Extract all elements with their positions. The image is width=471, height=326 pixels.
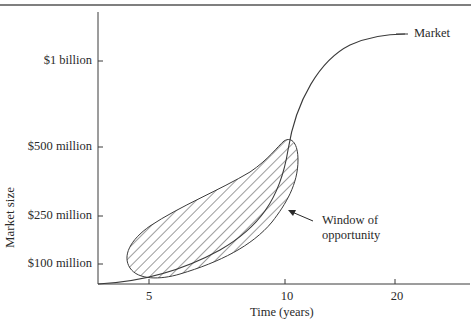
ytick-label-100m: $100 million <box>2 256 92 271</box>
chart-canvas <box>0 0 471 326</box>
window-arrow-line <box>292 212 313 221</box>
ytick-label-500m: $500 million <box>2 139 92 154</box>
market-window-chart: $1 billion $500 million $250 million $10… <box>0 0 471 326</box>
window-label-line2: opportunity <box>322 228 380 243</box>
window-label-line1: Window of <box>322 213 378 228</box>
xtick-label-10: 10 <box>272 289 302 304</box>
x-axis-title: Time (years) <box>250 305 314 320</box>
window-hatch-fill <box>110 130 310 290</box>
market-label: Market <box>414 26 450 41</box>
ytick-label-1b: $1 billion <box>2 53 92 68</box>
xtick-label-20: 20 <box>382 289 412 304</box>
xtick-label-5: 5 <box>134 289 164 304</box>
y-axis-title: Market size <box>2 187 18 248</box>
